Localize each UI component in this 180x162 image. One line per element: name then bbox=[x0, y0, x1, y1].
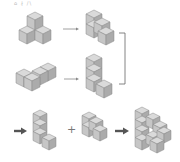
row1-source-shape bbox=[19, 12, 51, 44]
row2-arrow-icon bbox=[64, 78, 79, 81]
bracket-connector bbox=[119, 33, 125, 84]
row3-bold-arrow-icon-2 bbox=[115, 128, 129, 135]
row2-result-shape bbox=[86, 54, 112, 98]
row3-piece-vertical-l bbox=[33, 110, 56, 150]
row1-result-shape bbox=[86, 10, 114, 45]
row3-bold-arrow-icon-1 bbox=[14, 128, 27, 135]
row2-source-shape bbox=[16, 63, 56, 91]
cube-diagram bbox=[0, 0, 180, 162]
row1-arrow-icon bbox=[63, 28, 79, 31]
row3-piece-stepped bbox=[82, 112, 107, 141]
row3-combined-assembly bbox=[135, 107, 171, 153]
plus-sign: + bbox=[67, 124, 76, 135]
